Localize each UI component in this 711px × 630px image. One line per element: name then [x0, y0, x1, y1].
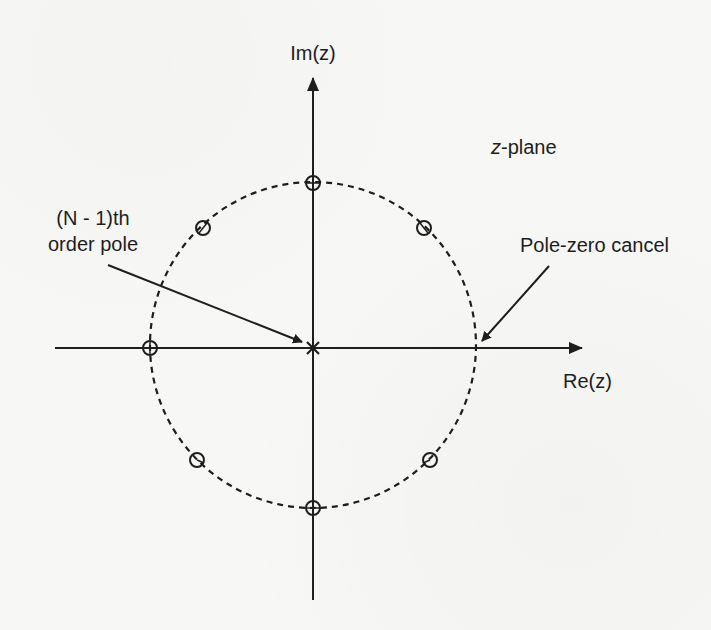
- zero-lower-left-icon: [190, 453, 204, 467]
- cancel-annotation-arrow: [482, 266, 549, 341]
- plane-label-var: z: [490, 136, 501, 158]
- zero-lower-right-icon: [423, 453, 437, 467]
- real-axis-label: Re(z): [563, 370, 612, 392]
- cancel-label: Pole-zero cancel: [520, 234, 669, 256]
- plane-label-suffix: -plane: [501, 136, 557, 158]
- pole-annotation-arrow: [108, 265, 302, 342]
- zero-upper-right-icon: [417, 221, 431, 235]
- z-plane-diagram: Im(z) Re(z) z-plane (N - 1)th order pole…: [0, 0, 711, 630]
- pole-label-line1: (N - 1)th: [56, 207, 129, 229]
- imag-axis-label: Im(z): [290, 42, 336, 64]
- pole-label-line2: order pole: [48, 233, 138, 255]
- plane-label: z-plane: [490, 136, 557, 158]
